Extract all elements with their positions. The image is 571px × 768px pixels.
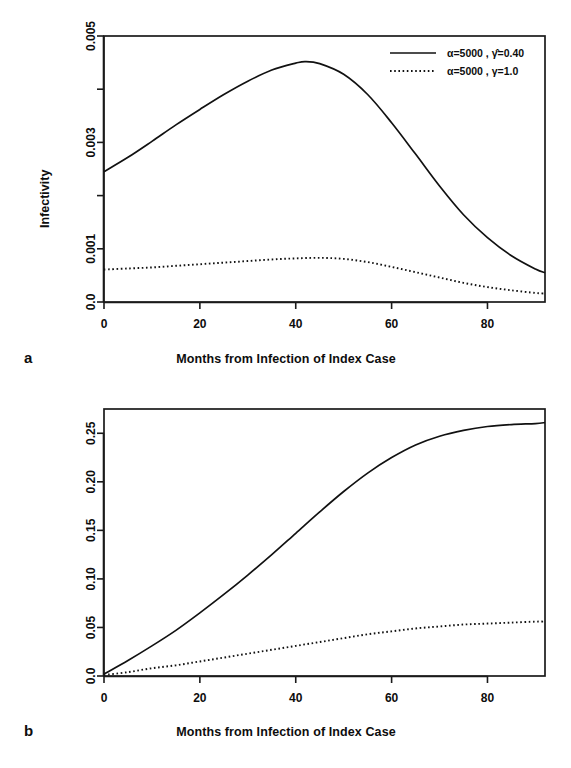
panel-a: 0204060800.00.0010.0030.005α=5000 , γ̂=0… [0, 0, 571, 384]
chart-b: 0204060800.00.050.100.150.200.25 [0, 384, 571, 768]
x-tick-label: 80 [481, 691, 495, 705]
y-tick-label: 0.20 [84, 470, 98, 494]
figure-container: 0204060800.00.0010.0030.005α=5000 , γ̂=0… [0, 0, 571, 768]
x-tick-label: 20 [193, 317, 207, 331]
y-tick-label: 0.10 [84, 567, 98, 591]
y-tick-label: 0.001 [84, 233, 98, 263]
x-tick-label: 20 [193, 691, 207, 705]
series-line-2 [104, 622, 545, 675]
series-line-1 [104, 62, 545, 273]
x-axis-label-b: Months from Infection of Index Case [36, 725, 536, 739]
x-tick-label: 0 [101, 317, 108, 331]
y-tick-label: 0.0 [84, 667, 98, 684]
x-tick-label: 80 [481, 317, 495, 331]
series-line-1 [104, 423, 545, 674]
x-tick-label: 40 [289, 691, 303, 705]
chart-a: 0204060800.00.0010.0030.005α=5000 , γ̂=0… [0, 0, 571, 384]
legend-label-2: α=5000 , γ=1.0 [447, 65, 518, 77]
y-axis-label-a: Infectivity [38, 170, 52, 228]
y-tick-label: 0.005 [84, 21, 98, 51]
y-tick-label: 0.003 [84, 127, 98, 157]
panel-letter-a: a [24, 349, 32, 366]
y-tick-label: 0.05 [84, 615, 98, 639]
panel-letter-b: b [24, 722, 33, 739]
x-tick-label: 0 [101, 691, 108, 705]
y-tick-label: 0.0 [84, 293, 98, 310]
y-tick-label: 0.15 [84, 518, 98, 542]
legend-label-1: α=5000 , γ̂=0.40 [447, 47, 524, 59]
x-tick-label: 60 [385, 691, 399, 705]
x-tick-label: 60 [385, 317, 399, 331]
panel-b: 0204060800.00.050.100.150.200.25 Cumulat… [0, 384, 571, 768]
x-axis-label-a: Months from Infection of Index Case [36, 352, 536, 366]
plot-frame [104, 409, 545, 676]
x-tick-label: 40 [289, 317, 303, 331]
y-tick-label: 0.25 [84, 421, 98, 445]
series-line-2 [104, 258, 545, 294]
